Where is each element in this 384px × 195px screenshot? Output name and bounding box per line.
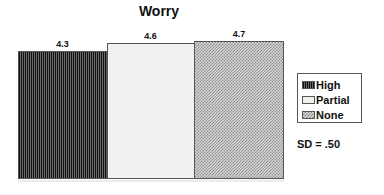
sd-annotation: SD = .50 [297, 138, 340, 150]
bar-value-label-high: 4.3 [18, 39, 107, 49]
baseline [18, 180, 284, 182]
legend-label: Partial [316, 94, 350, 106]
legend: High Partial None [297, 73, 362, 123]
bar-partial [107, 43, 195, 179]
legend-label: High [316, 79, 340, 91]
bar-none [194, 41, 284, 179]
bar-value-label-none: 4.7 [194, 29, 284, 39]
chart-title: Worry [0, 3, 318, 19]
legend-item-none: None [302, 107, 361, 122]
bar-value-label-partial: 4.6 [107, 31, 194, 41]
legend-swatch-none-icon [302, 111, 315, 119]
legend-item-partial: Partial [302, 92, 361, 107]
legend-label: None [316, 109, 344, 121]
legend-swatch-partial-icon [302, 96, 315, 104]
bar-high [18, 51, 107, 179]
legend-item-high: High [302, 77, 361, 92]
legend-swatch-high-icon [302, 81, 315, 89]
